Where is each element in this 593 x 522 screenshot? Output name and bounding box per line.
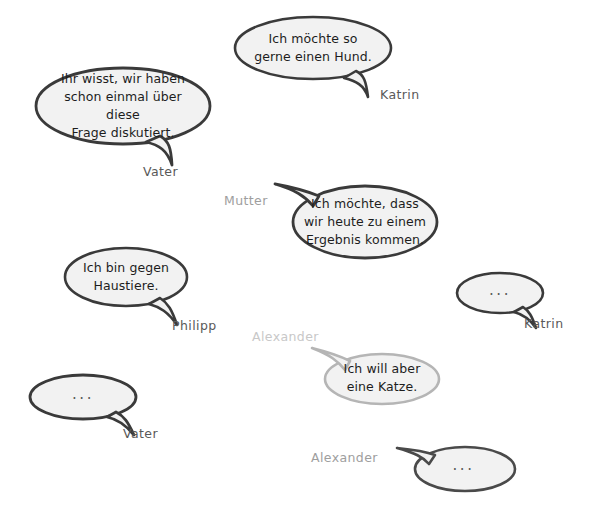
speech-bubble-scene: Ich möchte so gerne einen Hund. Katrin I… <box>0 0 593 522</box>
speaker-label-alexander-katze: Alexander <box>252 329 319 344</box>
speaker-label-alexander-empty: Alexander <box>311 450 378 465</box>
speech-bubble-alexander-katze[interactable]: Ich will aber eine Katze. <box>322 348 442 408</box>
speaker-label-katrin-empty: Katrin <box>524 316 563 331</box>
bubble-shape <box>291 180 451 264</box>
speech-bubble-alexander-empty[interactable]: ... <box>411 444 516 492</box>
speech-bubble-katrin-empty[interactable]: ... <box>455 271 545 315</box>
speech-bubble-vater-empty[interactable]: ... <box>28 373 138 420</box>
speech-bubble-katrin-hund[interactable]: Ich möchte so gerne einen Hund. <box>232 15 394 81</box>
speaker-label-vater-frage: Vater <box>143 164 178 179</box>
speaker-label-vater-empty: Vater <box>123 426 158 441</box>
bubble-shape <box>62 246 190 328</box>
bubble-shape <box>411 444 521 496</box>
speaker-label-katrin-hund: Katrin <box>380 87 419 102</box>
speech-bubble-philipp-haustiere[interactable]: Ich bin gegen Haustiere. <box>62 246 190 308</box>
bubble-shape <box>232 15 394 101</box>
speech-bubble-vater-frage[interactable]: Ihr wisst, wir haben schon einmal über d… <box>33 66 213 146</box>
bubble-shape <box>33 66 213 168</box>
speaker-label-philipp-haustiere: Philipp <box>172 318 217 333</box>
bubble-shape <box>322 348 452 410</box>
speech-bubble-mutter-ergebnis[interactable]: Ich möchte, dass wir heute zu einem Erge… <box>291 180 439 264</box>
speaker-label-mutter-ergebnis: Mutter <box>224 193 268 208</box>
